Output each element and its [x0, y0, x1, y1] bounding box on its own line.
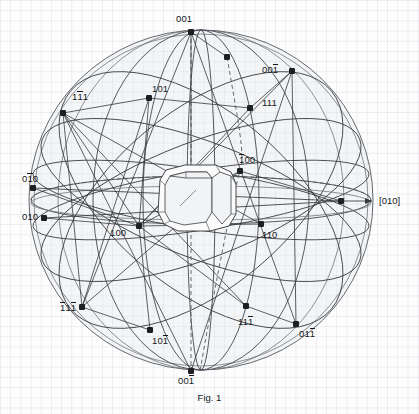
stereographic-projection-figure — [0, 0, 419, 414]
pole-label: 001 — [262, 65, 278, 75]
axis-010-label: [010] — [379, 195, 400, 206]
pole-label: 001 — [178, 376, 194, 386]
pole-label: 010 — [22, 174, 38, 184]
pole-marker[interactable] — [188, 368, 194, 374]
pole-marker[interactable] — [30, 185, 36, 191]
pole-marker[interactable] — [79, 304, 85, 310]
pole-marker[interactable] — [289, 68, 295, 74]
crystal-front-face — [165, 172, 212, 225]
pole-label: 001 — [176, 14, 192, 24]
pole-marker[interactable] — [243, 303, 249, 309]
pole-marker[interactable] — [293, 321, 299, 327]
pole-marker[interactable] — [147, 327, 153, 333]
pole-marker-unlabeled[interactable] — [224, 54, 230, 60]
pole-marker-unlabeled[interactable] — [338, 198, 344, 204]
pole-marker[interactable] — [146, 95, 152, 101]
figure-page: 0010011111011111000100101001101111011110… — [0, 0, 419, 414]
figure-caption: Fig. 1 — [0, 392, 419, 403]
pole-label: 101 — [152, 336, 168, 346]
pole-marker[interactable] — [247, 105, 253, 111]
pole-marker[interactable] — [258, 221, 264, 227]
pole-marker[interactable] — [237, 168, 243, 174]
pole-label: 010 — [22, 212, 38, 222]
pole-label: 101 — [152, 84, 168, 94]
pole-marker[interactable] — [136, 223, 142, 229]
pole-label: 111 — [238, 317, 253, 327]
pole-label: 111 — [60, 303, 76, 313]
pole-marker[interactable] — [188, 29, 194, 35]
pole-label: 100 — [110, 228, 126, 238]
central-crystal — [158, 165, 236, 231]
pole-label: 110 — [262, 230, 277, 240]
pole-label: 100 — [239, 155, 255, 165]
pole-label: 011 — [299, 329, 315, 339]
pole-label: 111 — [262, 98, 277, 108]
pole-label: 111 — [72, 92, 88, 102]
pole-marker[interactable] — [60, 110, 66, 116]
pole-marker[interactable] — [41, 215, 47, 221]
